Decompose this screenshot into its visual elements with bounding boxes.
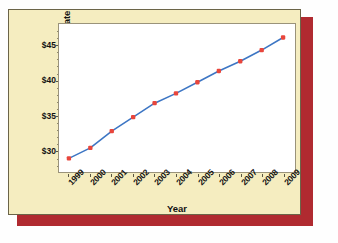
data-point [281, 35, 285, 39]
y-tick-label: $40 [30, 76, 56, 85]
data-point [110, 129, 114, 133]
data-point [88, 146, 92, 150]
x-axis-title: Year [58, 203, 296, 214]
data-point [174, 91, 178, 95]
data-point [217, 69, 221, 73]
data-point [260, 48, 264, 52]
chart-figure: Average Basic Cable Rate $45$40$35$30 19… [0, 0, 338, 243]
y-tick-label: $30 [30, 147, 56, 156]
data-point [131, 115, 135, 119]
data-point [67, 156, 71, 160]
data-point [238, 59, 242, 63]
y-tick-label: $45 [30, 41, 56, 50]
chart-card: Average Basic Cable Rate $45$40$35$30 19… [8, 9, 301, 215]
plot-svg [59, 24, 295, 172]
data-line [69, 37, 283, 158]
y-tick-label: $35 [30, 112, 56, 121]
data-point [195, 80, 199, 84]
plot-area [58, 23, 296, 173]
data-point [152, 101, 156, 105]
y-axis-ticks: $45$40$35$30 [26, 23, 56, 173]
